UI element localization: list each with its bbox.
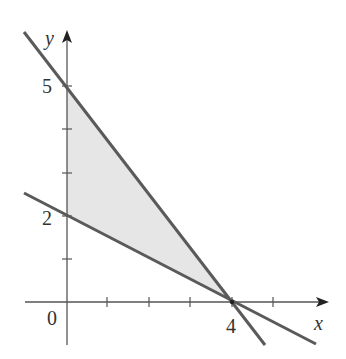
y-axis-label: y — [43, 27, 54, 50]
intersection-point — [230, 300, 234, 304]
figure: y x 5 2 0 4 — [0, 0, 346, 359]
y-tick-label-5: 5 — [42, 75, 52, 97]
line-2 — [24, 193, 316, 344]
origin-label: 0 — [47, 307, 57, 329]
chart-svg: y x 5 2 0 4 — [0, 0, 346, 359]
y-tick-label-2: 2 — [42, 207, 52, 229]
x-tick-label-4: 4 — [226, 315, 236, 337]
x-axis-label: x — [313, 312, 323, 334]
